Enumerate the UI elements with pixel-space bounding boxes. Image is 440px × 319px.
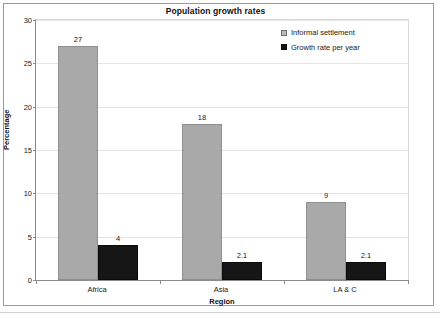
x-tick-mark bbox=[408, 280, 409, 284]
chart-legend: Informal settlementGrowth rate per year bbox=[281, 29, 360, 58]
bar-value-label: 27 bbox=[74, 35, 82, 44]
x-tick-mark bbox=[160, 280, 161, 284]
legend-entry: Growth rate per year bbox=[281, 44, 360, 52]
y-axis-title: Percentage bbox=[2, 110, 11, 150]
y-tick-label: 10 bbox=[24, 189, 32, 198]
bar-value-label: 9 bbox=[324, 191, 328, 200]
legend-label: Growth rate per year bbox=[291, 44, 360, 52]
y-tick-label: 30 bbox=[24, 16, 32, 25]
x-category-label: Africa bbox=[87, 285, 106, 294]
gridline bbox=[36, 20, 408, 21]
bar-value-label: 4 bbox=[116, 234, 120, 243]
y-tick-mark bbox=[33, 193, 36, 194]
x-tick-mark bbox=[284, 280, 285, 284]
x-axis-title: Region bbox=[35, 297, 409, 306]
y-tick-mark bbox=[33, 237, 36, 238]
chart-screenshot: Population growth rates Percentage 05101… bbox=[0, 0, 440, 319]
y-tick-mark bbox=[33, 150, 36, 151]
y-tick-label: 25 bbox=[24, 59, 32, 68]
bar-africa-informal-settlement bbox=[58, 46, 98, 280]
y-tick-label: 20 bbox=[24, 102, 32, 111]
x-category-label: LA & C bbox=[333, 285, 356, 294]
legend-entry: Informal settlement bbox=[281, 29, 360, 37]
bar-value-label: 18 bbox=[198, 113, 206, 122]
x-tick-mark bbox=[36, 280, 37, 284]
y-tick-label: 5 bbox=[28, 232, 32, 241]
plot-area: 051015202530274182.192.1 bbox=[35, 19, 409, 281]
y-tick-mark bbox=[33, 107, 36, 108]
bar-la-c-growth-rate bbox=[346, 262, 386, 280]
y-tick-mark bbox=[33, 20, 36, 21]
y-tick-label: 15 bbox=[24, 146, 32, 155]
bar-value-label: 2.1 bbox=[237, 251, 247, 260]
bar-asia-growth-rate bbox=[222, 262, 262, 280]
bar-africa-growth-rate bbox=[98, 245, 138, 280]
bottom-divider bbox=[0, 312, 440, 313]
chart-title: Population growth rates bbox=[0, 6, 431, 16]
y-tick-label: 0 bbox=[28, 276, 32, 285]
legend-swatch-informal-settlement-icon bbox=[281, 30, 287, 36]
bar-la-c-informal-settlement bbox=[306, 202, 346, 280]
bar-value-label: 2.1 bbox=[361, 251, 371, 260]
x-category-label: Asia bbox=[214, 285, 229, 294]
y-tick-mark bbox=[33, 63, 36, 64]
legend-swatch-growth-rate-icon bbox=[281, 44, 287, 50]
legend-label: Informal settlement bbox=[291, 29, 355, 37]
bar-asia-informal-settlement bbox=[182, 124, 222, 280]
